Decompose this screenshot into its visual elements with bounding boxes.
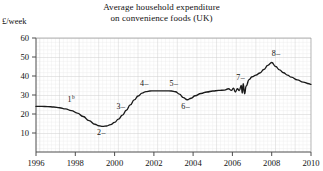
annotation-8: 8–: [272, 49, 282, 58]
y-tick-10: 10: [20, 128, 29, 138]
annotation-5: 5–: [170, 79, 180, 88]
x-tick-2008: 2008: [263, 158, 280, 168]
annotation-label-8: 8–: [272, 49, 282, 58]
annotation-4: 4–: [140, 79, 150, 88]
x-axis-ticks: 1996 1998 2000 2002 2004 2006 2008 2010: [27, 152, 319, 168]
annotation-label-3: 3–: [117, 102, 127, 111]
annotation-6: 6–: [181, 102, 191, 111]
y-tick-60: 60: [20, 33, 29, 43]
x-tick-2010: 2010: [302, 158, 319, 168]
y-axis-ticks: 60 50 40 30 20 10: [20, 33, 36, 138]
plot-svg: 60 50 40 30 20 10 1996 1998 2000 2002 20…: [0, 0, 323, 171]
x-tick-1998: 1998: [67, 158, 84, 168]
x-tick-1996: 1996: [27, 158, 45, 168]
annotation-label-7: 7–: [236, 73, 246, 82]
annotation-label-5: 5–: [170, 79, 180, 88]
annotation-superscript-1: b: [72, 94, 75, 100]
x-tick-2000: 2000: [106, 158, 123, 168]
y-tick-40: 40: [20, 71, 29, 81]
y-tick-50: 50: [20, 52, 29, 62]
annotation-2: 2–: [97, 128, 107, 137]
x-tick-2002: 2002: [145, 158, 162, 168]
chart-figure: Average household expenditure on conveni…: [0, 0, 323, 171]
y-tick-30: 30: [20, 90, 29, 100]
annotation-7: 7–: [236, 73, 246, 82]
plot-grid: [36, 38, 311, 152]
x-tick-2006: 2006: [224, 158, 242, 168]
annotation-label-6: 6–: [181, 102, 191, 111]
annotation-label-2: 2–: [97, 128, 107, 137]
x-tick-2004: 2004: [185, 158, 203, 168]
y-tick-20: 20: [20, 109, 29, 119]
annotation-label-4: 4–: [140, 79, 150, 88]
annotation-3: 3–: [117, 102, 127, 111]
